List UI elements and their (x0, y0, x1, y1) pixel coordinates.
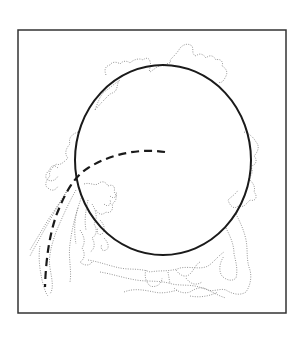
diagram-canvas (0, 0, 299, 337)
diagram-figure (0, 0, 299, 337)
